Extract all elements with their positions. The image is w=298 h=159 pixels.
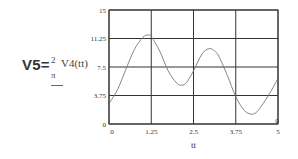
line-chart: 03.757.511.2515 01.252.53.755 tt 0 — [0, 0, 298, 159]
y-tick-label: 0 — [103, 121, 107, 129]
x-tick-label: 5 — [276, 128, 280, 136]
x-tick-label: 3.75 — [230, 128, 243, 136]
x-axis-ticks: 01.252.53.755 — [110, 128, 280, 136]
x-tick-label: 0 — [110, 128, 114, 136]
x-axis-label: tt — [191, 140, 197, 150]
y-tick-label: 7.5 — [97, 64, 106, 72]
y-axis-ticks: 03.757.511.2515 — [91, 7, 107, 129]
y-tick-label: 3.75 — [94, 92, 107, 100]
corner-marker: 0 — [275, 117, 279, 125]
x-tick-label: 1.25 — [145, 128, 158, 136]
x-tick-label: 2.5 — [189, 128, 198, 136]
y-tick-label: 15 — [99, 7, 107, 15]
chart-grid — [109, 10, 278, 124]
y-tick-label: 11.25 — [91, 35, 107, 43]
